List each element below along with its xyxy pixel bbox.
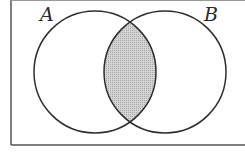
venn-diagram: A B	[0, 0, 245, 154]
set-a-label: A	[38, 3, 54, 25]
set-b-label: B	[203, 3, 218, 25]
